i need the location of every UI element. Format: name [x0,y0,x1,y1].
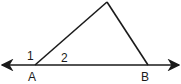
triangle-side-apex-to-b [107,2,148,65]
triangle-side-a-to-apex [35,2,107,65]
angle-2-label: 2 [61,51,68,65]
angle-1-label: 1 [27,49,34,63]
diagram-svg: 1 2 A B [0,0,181,84]
triangle-diagram: 1 2 A B [0,0,181,84]
point-a-label: A [28,70,36,84]
point-b-label: B [141,70,149,84]
